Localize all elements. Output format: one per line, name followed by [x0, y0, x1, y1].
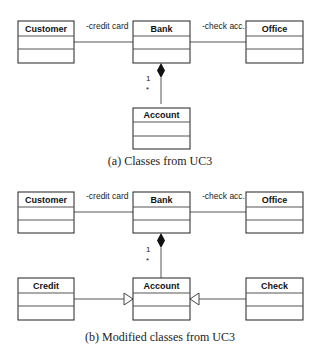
class-bank: Bank [133, 192, 190, 233]
multiplicity-many: * [146, 256, 149, 265]
composition-diamond-icon [157, 233, 165, 248]
class-name: Check [261, 281, 289, 291]
class-name: Customer [25, 24, 68, 34]
figure-b: -credit card -check acc. 1 * Customer Ba… [18, 191, 303, 344]
class-customer: Customer [18, 192, 74, 233]
caption-b: (b) Modified classes from UC3 [85, 330, 235, 344]
class-name: Account [144, 110, 180, 120]
class-name: Bank [150, 24, 173, 34]
class-name: Office [262, 24, 288, 34]
figure-a: -credit card -check acc. 1 * Customer Ba… [18, 21, 303, 168]
class-check: Check [246, 278, 303, 320]
multiplicity-many: * [146, 85, 149, 94]
class-name: Account [144, 281, 180, 291]
class-customer: Customer [18, 21, 74, 63]
generalization-arrow-icon [124, 293, 133, 305]
association-label-credit-card: -credit card [86, 191, 129, 201]
class-name: Credit [33, 281, 59, 291]
multiplicity-one: 1 [146, 74, 151, 83]
association-label-credit-card: -credit card [86, 21, 129, 31]
class-account: Account [133, 278, 190, 320]
class-account: Account [133, 108, 190, 149]
class-bank: Bank [133, 21, 190, 63]
association-label-check-acc: -check acc. [202, 191, 245, 201]
class-name: Bank [150, 195, 173, 205]
composition-diamond-icon [157, 63, 165, 78]
class-credit: Credit [18, 278, 74, 320]
class-name: Office [262, 195, 288, 205]
caption-a: (a) Classes from UC3 [108, 154, 212, 168]
generalization-arrow-icon [190, 293, 199, 305]
class-name: Customer [25, 195, 68, 205]
association-label-check-acc: -check acc. [202, 21, 245, 31]
class-office: Office [246, 21, 303, 63]
uml-figure: -credit card -check acc. 1 * Customer Ba… [0, 0, 320, 358]
class-office: Office [246, 192, 303, 233]
multiplicity-one: 1 [146, 245, 151, 254]
